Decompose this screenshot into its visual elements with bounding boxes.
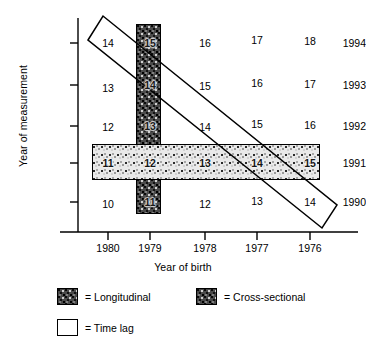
- cell-1991-1980: 11: [95, 157, 121, 169]
- cell-1991-1978: 13: [192, 157, 218, 169]
- cohort-sequential-design-figure: 1994 1993 1992 1991 1990 1980 1979 1978 …: [0, 0, 366, 352]
- legend-label-crosssectional: = Cross-sectional: [224, 291, 305, 303]
- cell-1991-1976: 15: [297, 157, 323, 169]
- cell-1994-1980: 14: [95, 37, 121, 49]
- cell-1992-1976: 16: [297, 119, 323, 131]
- timelag-swatch-icon: [57, 319, 78, 336]
- x-tick-label-1979: 1979: [123, 242, 177, 254]
- cell-1992-1977: 15: [244, 118, 270, 130]
- cell-1994-1979: 15: [137, 37, 163, 49]
- legend: = Longitudinal = Cross-sectional = Time …: [0, 288, 366, 352]
- legend-item-timelag: = Time lag: [57, 319, 134, 336]
- x-axis-title: Year of birth: [0, 261, 366, 273]
- cell-1993-1978: 15: [192, 80, 218, 92]
- cell-1994-1977: 17: [244, 34, 270, 46]
- cell-1993-1977: 16: [244, 77, 270, 89]
- cell-1993-1979: 14: [137, 79, 163, 91]
- legend-row-2: = Time lag: [0, 319, 366, 345]
- legend-label-longitudinal: = Longitudinal: [85, 291, 151, 303]
- crosssectional-swatch-icon: [196, 288, 217, 305]
- y-axis-title: Year of measurement: [17, 46, 29, 186]
- cell-1991-1977: 14: [244, 157, 270, 169]
- cell-1992-1978: 14: [192, 121, 218, 133]
- cell-1990-1977: 13: [244, 195, 270, 207]
- cell-1993-1976: 17: [297, 78, 323, 90]
- legend-row-1: = Longitudinal = Cross-sectional: [0, 288, 366, 314]
- cell-1991-1979: 12: [137, 157, 163, 169]
- cell-1990-1980: 10: [95, 198, 121, 210]
- cell-1992-1980: 12: [95, 121, 121, 133]
- legend-item-crosssectional: = Cross-sectional: [196, 288, 305, 305]
- x-tick-label-1978: 1978: [178, 242, 232, 254]
- cell-1994-1978: 16: [192, 37, 218, 49]
- cell-1993-1980: 13: [95, 82, 121, 94]
- cell-1994-1976: 18: [297, 35, 323, 47]
- cell-1990-1976: 14: [297, 196, 323, 208]
- cell-1990-1978: 12: [192, 198, 218, 210]
- cell-1992-1979: 13: [137, 120, 163, 132]
- longitudinal-swatch-icon: [57, 288, 78, 305]
- legend-item-longitudinal: = Longitudinal: [57, 288, 151, 305]
- x-tick-label-1977: 1977: [230, 242, 284, 254]
- legend-label-timelag: = Time lag: [85, 322, 134, 334]
- x-tick-label-1976: 1976: [283, 242, 337, 254]
- cell-1990-1979: 11: [137, 196, 163, 208]
